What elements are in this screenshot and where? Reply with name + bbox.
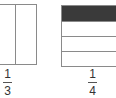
denominator: 3 — [4, 85, 11, 97]
divider-line — [62, 51, 116, 52]
numerator: 1 — [4, 68, 11, 80]
fraction-bar — [3, 82, 12, 83]
left-divider-line — [15, 5, 16, 64]
fraction-bar — [88, 82, 97, 83]
fraction-label-left: 1 3 — [3, 68, 12, 97]
numerator: 1 — [89, 68, 96, 80]
divider-line — [62, 21, 116, 22]
left-fraction-rectangle — [0, 4, 37, 65]
denominator: 4 — [89, 85, 96, 97]
divider-line — [62, 36, 116, 37]
shaded-part — [62, 6, 116, 21]
fraction-label-right: 1 4 — [88, 68, 97, 97]
right-fraction-rectangle — [61, 5, 116, 67]
